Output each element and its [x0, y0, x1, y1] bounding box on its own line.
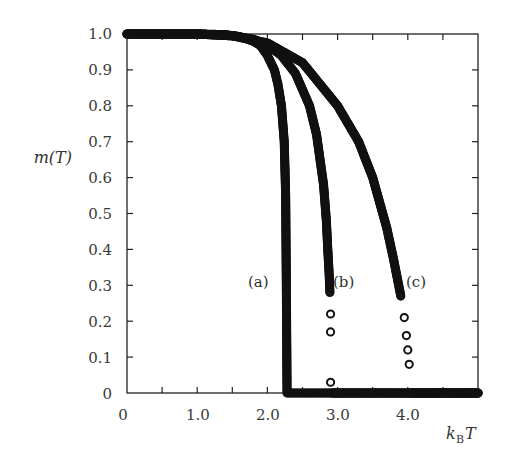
- x-tick-labels: 0 1.0 2.0 3.0 4.0: [118, 406, 420, 424]
- y-tick-label: 0.5: [88, 205, 112, 223]
- curve-label-b: (b): [333, 273, 354, 291]
- x-axis-label-t: T: [465, 424, 477, 443]
- y-tick-label: 0.3: [88, 277, 112, 295]
- y-tick-label: 1.0: [88, 25, 112, 43]
- x-axis-label: k B T: [446, 424, 477, 446]
- y-tick-label: 0.4: [88, 241, 112, 259]
- y-tick-label: 0.1: [88, 349, 112, 367]
- y-tick-label: 0: [102, 385, 112, 403]
- y-tick-label: 0.9: [88, 61, 112, 79]
- x-tick-label: 4.0: [396, 406, 420, 424]
- x-tick-label: 3.0: [326, 406, 350, 424]
- y-tick-label: 0.2: [88, 313, 112, 331]
- x-tick-label: 2.0: [256, 406, 280, 424]
- y-tick-label: 0.7: [88, 133, 112, 151]
- y-tick-label: 0.6: [88, 169, 112, 187]
- magnetization-chart: 1.0 0.9 0.8 0.7 0.6 0.5 0.4 0.3 0.2 0.1 …: [0, 0, 509, 463]
- data-series: [123, 30, 481, 396]
- x-tick-label: 1.0: [186, 406, 210, 424]
- y-tick-labels: 1.0 0.9 0.8 0.7 0.6 0.5 0.4 0.3 0.2 0.1 …: [88, 25, 112, 403]
- curve-label-a: (a): [248, 273, 269, 291]
- curve-label-c: (c): [406, 273, 426, 291]
- x-axis-label-sub: B: [456, 433, 464, 446]
- y-axis-label: m(T): [34, 148, 72, 167]
- x-tick-label: 0: [118, 406, 128, 424]
- y-tick-label: 0.8: [88, 97, 112, 115]
- x-axis-label-k: k: [446, 424, 456, 443]
